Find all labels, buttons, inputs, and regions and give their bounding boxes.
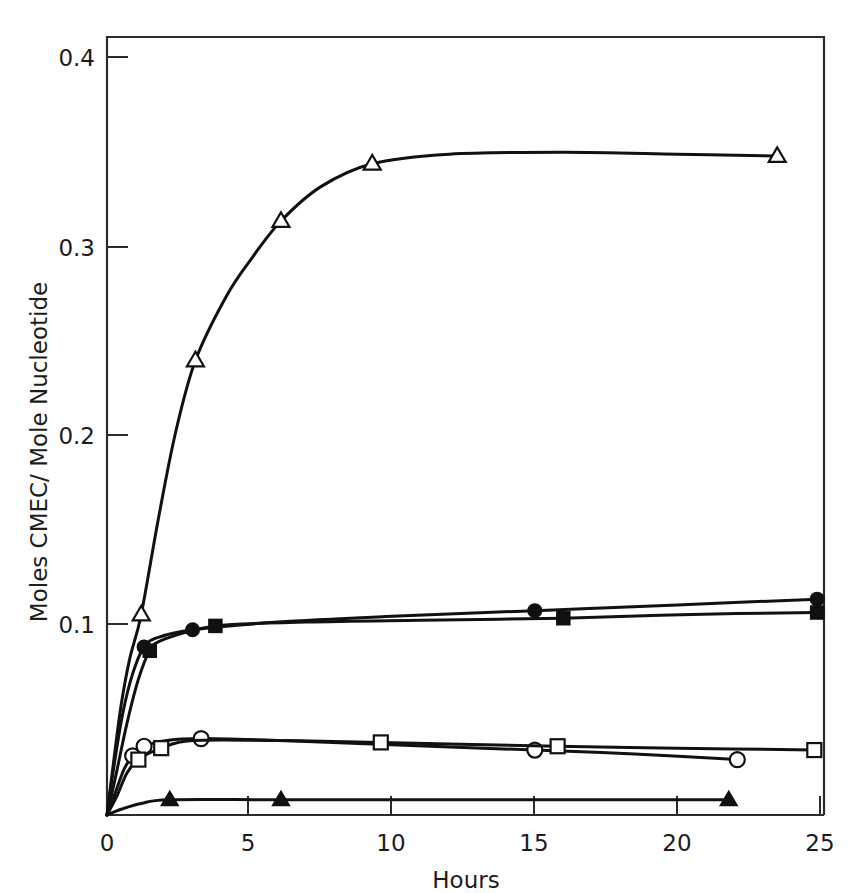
data-point-square-open [154, 741, 168, 755]
data-point-square-open [374, 735, 388, 749]
x-tick-label-5: 5 [241, 830, 256, 856]
y-tick-label-0.3: 0.3 [58, 235, 95, 261]
x-tick-label-10: 10 [376, 830, 405, 856]
x-tick-label-0: 0 [100, 830, 115, 856]
data-point-square-filled [209, 620, 222, 633]
chart-plot-area: 0.4 0.3 0.2 0.1 0 5 10 15 20 25 Hours Mo… [0, 0, 861, 893]
series-filled-square [107, 606, 823, 815]
series-line-open-triangle [107, 152, 777, 815]
y-tick-label-0.1: 0.1 [58, 612, 95, 638]
data-point-square-filled [557, 612, 570, 625]
y-tick-label-0.4: 0.4 [58, 45, 95, 71]
data-point-circle-open [730, 752, 745, 767]
series-layer [107, 147, 824, 815]
series-line-filled-triangle [107, 799, 729, 815]
series-line-open-square [107, 740, 814, 815]
y-axis-ticks [107, 57, 128, 624]
series-line-filled-square [107, 613, 817, 815]
x-axis-title: Hours [432, 867, 499, 893]
data-point-square-open [131, 753, 145, 767]
data-point-triangle-open [133, 606, 150, 621]
data-point-circle-filled [811, 593, 824, 606]
x-tick-label-25: 25 [805, 830, 834, 856]
data-point-square-filled [811, 606, 824, 619]
data-point-triangle-open [187, 352, 204, 367]
series-filled-triangle [107, 792, 737, 815]
data-point-square-open [551, 739, 565, 753]
x-tick-label-20: 20 [662, 830, 691, 856]
y-axis-title: Moles CMEC/ Mole Nucleotide [26, 282, 52, 622]
series-line-open-circle [107, 739, 737, 815]
data-point-square-filled [144, 644, 157, 657]
data-point-square-open [807, 743, 821, 757]
data-point-circle-filled [528, 604, 541, 617]
chart-figure: 0.4 0.3 0.2 0.1 0 5 10 15 20 25 Hours Mo… [0, 0, 861, 893]
x-tick-label-15: 15 [519, 830, 548, 856]
series-open-triangle [107, 147, 786, 815]
y-tick-label-0.2: 0.2 [58, 423, 95, 449]
